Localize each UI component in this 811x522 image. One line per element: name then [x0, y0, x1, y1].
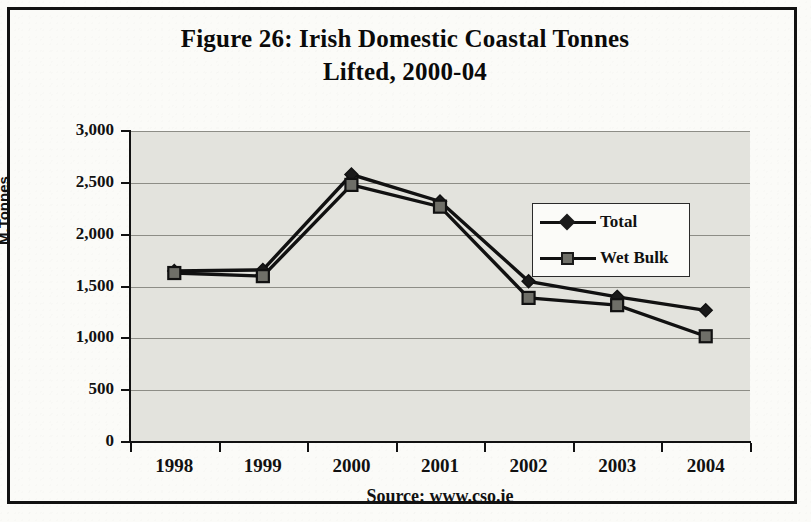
- y-axis-tick: [121, 130, 131, 132]
- x-axis-tick: [396, 443, 398, 452]
- data-point-square: [257, 270, 269, 282]
- y-axis-label: 1,500: [28, 276, 114, 296]
- y-axis-label: 2,000: [28, 224, 114, 244]
- y-axis-label: 500: [28, 379, 114, 399]
- source-note: Source: www.cso.ie: [130, 486, 750, 507]
- x-axis-tick: [484, 443, 486, 452]
- x-axis-label: 2001: [392, 455, 488, 477]
- y-axis-tick: [121, 182, 131, 184]
- legend-label-total: Total: [600, 212, 637, 232]
- x-axis-tick: [307, 443, 309, 452]
- legend-marker-square-icon: [540, 249, 596, 267]
- legend-marker-diamond-icon: [540, 213, 596, 231]
- x-axis-tick: [573, 443, 575, 452]
- legend-item-total: Total: [540, 209, 686, 235]
- data-point-square: [700, 330, 712, 342]
- y-axis-label: 1,000: [28, 327, 114, 347]
- x-axis-tick: [750, 443, 752, 452]
- scanned-figure-page: Figure 26: Irish Domestic Coastal Tonnes…: [0, 0, 811, 522]
- y-axis-tick: [121, 234, 131, 236]
- y-axis-label: 2,500: [28, 172, 114, 192]
- legend-label-wet-bulk: Wet Bulk: [600, 248, 669, 268]
- chart-legend: Total Wet Bulk: [532, 203, 690, 277]
- data-point-square: [523, 292, 535, 304]
- y-axis-label: 3,000: [28, 120, 114, 140]
- x-axis-label: 2003: [569, 455, 665, 477]
- x-axis-label: 2004: [658, 455, 754, 477]
- x-axis-label: 1998: [126, 455, 222, 477]
- x-axis-tick: [130, 443, 132, 452]
- legend-item-wet-bulk: Wet Bulk: [540, 245, 686, 271]
- y-axis-tick: [121, 337, 131, 339]
- y-axis-tick: [121, 286, 131, 288]
- data-point-square: [345, 179, 357, 191]
- y-axis-label: 0: [28, 431, 114, 451]
- x-axis-label: 2000: [303, 455, 399, 477]
- data-point-square: [611, 299, 623, 311]
- y-axis-tick: [121, 389, 131, 391]
- x-axis-label: 2002: [481, 455, 577, 477]
- x-axis-tick: [219, 443, 221, 452]
- x-axis-label: 1999: [215, 455, 311, 477]
- data-point-square: [168, 267, 180, 279]
- x-axis-tick: [661, 443, 663, 452]
- data-point-diamond: [699, 304, 712, 317]
- data-point-square: [434, 201, 446, 213]
